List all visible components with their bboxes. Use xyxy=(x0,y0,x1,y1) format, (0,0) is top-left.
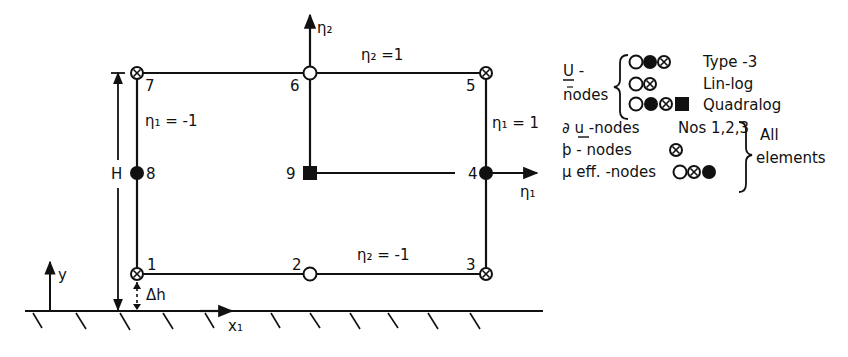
node-3-cross-circle-icon xyxy=(480,268,492,280)
legend: U - nodes Type -3 Lin-log Quadralog ∂ u … xyxy=(562,53,826,192)
node-6-open-circle-icon xyxy=(304,67,317,80)
legend-mu-open-circle-icon xyxy=(674,166,687,179)
legend-quadralog-filled-circle-icon xyxy=(644,97,658,111)
legend-type3-open-circle-icon xyxy=(630,56,643,69)
height-label: H xyxy=(111,165,122,183)
node-9-label: 9 xyxy=(286,165,296,183)
legend-type3-label: Type -3 xyxy=(702,53,757,71)
legend-quadralog-cross-circle-icon xyxy=(660,98,672,110)
x1-axis-label: x₁ xyxy=(228,317,243,335)
legend-all-elements-line1: All xyxy=(760,126,779,144)
offset-dimension xyxy=(133,282,141,310)
legend-mu-filled-circle-icon xyxy=(702,165,716,179)
legend-quadralog-label: Quadralog xyxy=(703,96,781,114)
node-4-filled-circle-icon xyxy=(479,166,493,180)
eta2-axis-label: η₂ xyxy=(317,19,333,37)
node-5-label: 5 xyxy=(466,77,476,95)
legend-linlog-cross-circle-icon xyxy=(644,78,656,90)
node-4-label: 4 xyxy=(468,165,478,183)
y-axis-label: y xyxy=(58,266,67,284)
node-9-filled-square-icon xyxy=(303,166,317,180)
node-8-label: 8 xyxy=(146,165,156,183)
legend-linlog-label: Lin-log xyxy=(703,75,753,93)
legend-p-nodes-cross-circle-icon xyxy=(670,144,682,156)
node-3-label: 3 xyxy=(466,256,476,274)
node-1-label: 1 xyxy=(147,256,157,274)
legend-mu-cross-circle-icon xyxy=(688,166,700,178)
ground-surface xyxy=(25,311,543,330)
height-dimension xyxy=(111,73,125,310)
edge-label-bottom: η₂ = -1 xyxy=(357,246,410,264)
node-7-cross-circle-icon xyxy=(131,67,143,79)
legend-linlog-open-circle-icon xyxy=(630,78,643,91)
legend-mu-nodes-label: μ eff. -nodes xyxy=(562,163,656,181)
legend-du-nodes-value: Nos 1,2,3 xyxy=(678,119,749,137)
legend-u-nodes-label-line2: nodes xyxy=(563,86,608,104)
legend-quadralog-filled-square-icon xyxy=(675,97,689,111)
legend-type3-cross-circle-icon xyxy=(658,56,670,68)
legend-all-elements-line2: elements xyxy=(756,149,826,167)
legend-quadralog-open-circle-icon xyxy=(630,98,643,111)
node-1-cross-circle-icon xyxy=(131,268,143,280)
node-2-label: 2 xyxy=(292,256,302,274)
legend-type3-filled-circle-icon xyxy=(643,55,657,69)
node-2-open-circle-icon xyxy=(304,268,317,281)
offset-label: Δh xyxy=(146,286,166,304)
edge-label-left: η₁ = -1 xyxy=(145,112,198,130)
legend-u-nodes-label-line1: U - xyxy=(563,62,584,80)
node-6-label: 6 xyxy=(290,77,300,95)
node-8-filled-circle-icon xyxy=(130,166,144,180)
legend-p-nodes-label: þ - nodes xyxy=(562,141,632,159)
eta1-axis-label: η₁ xyxy=(520,183,536,201)
edge-label-right: η₁ = 1 xyxy=(492,114,539,132)
node-5-cross-circle-icon xyxy=(480,67,492,79)
legend-du-nodes-label: ∂ u -nodes xyxy=(562,119,640,137)
element-diagram: x₁ y H Δh η₂ η₁ η₂ =1 η₂ = -1 η₁ = -1 η₁… xyxy=(0,0,848,357)
edge-label-top: η₂ =1 xyxy=(361,46,403,64)
legend-brace-left xyxy=(614,55,628,119)
node-7-label: 7 xyxy=(145,77,155,95)
